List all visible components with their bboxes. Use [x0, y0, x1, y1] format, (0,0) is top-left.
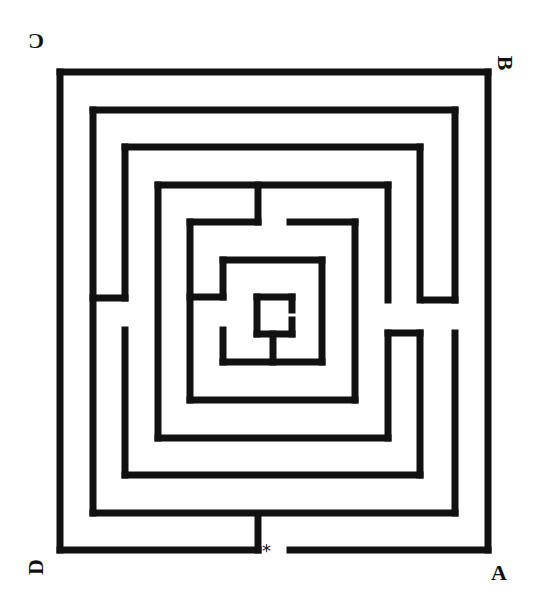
- label-a: A: [491, 562, 507, 584]
- label-b: B: [494, 56, 516, 71]
- maze-diagram: [0, 0, 547, 608]
- maze-walls: [60, 72, 488, 550]
- label-c: C: [28, 30, 44, 52]
- entrance-marker-icon: *: [262, 542, 271, 560]
- label-d: D: [25, 559, 47, 575]
